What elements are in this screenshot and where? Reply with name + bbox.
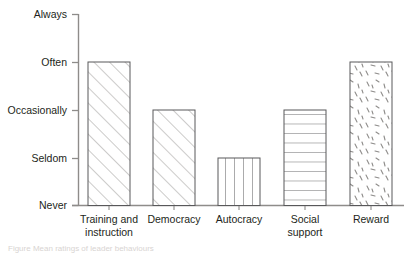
y-tick-label-always: Always (34, 8, 67, 20)
bar-chart: Always Often Occasionally Seldom Never T… (0, 0, 408, 253)
chart-background (0, 0, 408, 253)
x-label-reward: Reward (353, 213, 389, 225)
y-tick-label-seldom: Seldom (31, 152, 67, 164)
bar-democracy[interactable] (153, 110, 195, 206)
x-label-training-and-instruction-line1: Training and (80, 213, 138, 225)
y-tick-label-occasionally: Occasionally (7, 104, 67, 116)
bar-social-support[interactable] (284, 110, 326, 206)
x-label-training-and-instruction-line2: instruction (85, 226, 133, 238)
y-tick-label-often: Often (41, 56, 67, 68)
x-label-social-support-line2: support (287, 226, 322, 238)
x-label-democracy: Democracy (147, 213, 201, 225)
y-tick-label-never: Never (39, 199, 68, 211)
figure-caption: Figure Mean ratings of leader behaviours (8, 244, 154, 253)
bar-autocracy[interactable] (218, 158, 260, 206)
bar-reward[interactable] (350, 62, 392, 206)
x-label-social-support-line1: Social (291, 213, 320, 225)
bar-training-and-instruction[interactable] (88, 62, 130, 206)
x-label-autocracy: Autocracy (216, 213, 263, 225)
figure-container: Always Often Occasionally Seldom Never T… (0, 0, 408, 253)
